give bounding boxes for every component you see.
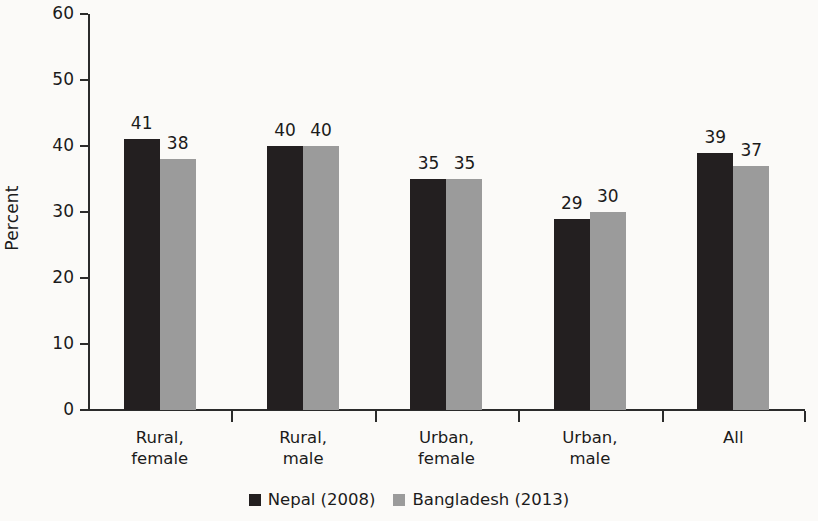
- bar-group: 4040: [231, 14, 374, 410]
- y-axis-tick-label: 0: [0, 401, 74, 418]
- bar-value-label: 40: [310, 122, 332, 139]
- bar: [160, 159, 196, 410]
- bar-value-label: 37: [740, 142, 762, 159]
- y-axis-tick-mark: [80, 343, 88, 345]
- x-axis-tick-mark: [518, 411, 520, 422]
- category-label-line: All: [662, 427, 805, 448]
- legend-label: Nepal (2008): [268, 492, 376, 509]
- bar-value-label: 29: [561, 195, 583, 212]
- y-axis-tick-label: 20: [0, 269, 74, 286]
- y-axis-tick-label: 40: [0, 137, 74, 154]
- x-axis-tick-mark: [662, 411, 664, 422]
- category-label-line: female: [375, 448, 518, 469]
- y-axis-tick-mark: [80, 13, 88, 15]
- bar-group: 4138: [88, 14, 231, 410]
- bar-value-label: 40: [274, 122, 296, 139]
- x-axis-category-label: Rural,female: [88, 427, 231, 469]
- category-label-line: male: [518, 448, 661, 469]
- category-label-line: male: [231, 448, 374, 469]
- y-axis-tick-label-text: 0: [0, 401, 74, 418]
- y-axis-tick-label-text: 40: [0, 137, 74, 154]
- legend-label: Bangladesh (2013): [412, 492, 569, 509]
- category-label-line: female: [88, 448, 231, 469]
- category-label-line: Rural,: [231, 427, 374, 448]
- x-axis-category-label: Urban,female: [375, 427, 518, 469]
- category-label-line: Urban,: [518, 427, 661, 448]
- x-axis-category-label: Rural,male: [231, 427, 374, 469]
- bar-value-label: 41: [131, 115, 153, 132]
- category-label-line: Rural,: [88, 427, 231, 448]
- y-axis-tick-label: 60: [0, 5, 74, 22]
- y-axis-tick-mark: [80, 409, 88, 411]
- legend-item[interactable]: Nepal (2008): [249, 492, 376, 509]
- bar-group: 3937: [662, 14, 805, 410]
- category-label-line: Urban,: [375, 427, 518, 448]
- x-axis-tick-mark: [375, 411, 377, 422]
- bar: [410, 179, 446, 410]
- x-axis-category-label: Urban,male: [518, 427, 661, 469]
- x-axis-category-label: All: [662, 427, 805, 448]
- bar-value-label: 38: [167, 135, 189, 152]
- bar: [267, 146, 303, 410]
- y-axis-tick-label-text: 20: [0, 269, 74, 286]
- y-axis-tick-label-text: 60: [0, 5, 74, 22]
- bar: [446, 179, 482, 410]
- y-axis-tick-mark: [80, 211, 88, 213]
- y-axis-tick-mark: [80, 79, 88, 81]
- x-axis-tick-mark: [231, 411, 233, 422]
- y-axis-tick-label-text: 50: [0, 71, 74, 88]
- bar: [124, 139, 160, 410]
- gray-swatch: [393, 494, 405, 506]
- y-axis-tick-label: 30: [0, 203, 74, 220]
- bar-value-label: 35: [418, 155, 440, 172]
- bar: [697, 153, 733, 410]
- y-axis-tick-mark: [80, 277, 88, 279]
- bar-value-label: 35: [454, 155, 476, 172]
- bar: [733, 166, 769, 410]
- y-axis-tick-label-text: 10: [0, 335, 74, 352]
- bar-value-label: 39: [704, 129, 726, 146]
- bar-group: 2930: [518, 14, 661, 410]
- bar: [554, 219, 590, 410]
- y-axis-tick-label: 10: [0, 335, 74, 352]
- y-axis-tick-label: 50: [0, 71, 74, 88]
- y-axis-tick-mark: [80, 145, 88, 147]
- x-axis-end-tick-mark: [804, 411, 806, 422]
- y-axis-tick-label-text: 30: [0, 203, 74, 220]
- bar-chart: Percent 0102030405060 413840403535293039…: [0, 0, 818, 521]
- legend-item[interactable]: Bangladesh (2013): [393, 492, 569, 509]
- bar: [303, 146, 339, 410]
- bar: [590, 212, 626, 410]
- bar-group: 3535: [375, 14, 518, 410]
- bar-value-label: 30: [597, 188, 619, 205]
- dark-swatch: [249, 494, 261, 506]
- chart-legend: Nepal (2008)Bangladesh (2013): [0, 492, 818, 509]
- plot-area: 41384040353529303937: [88, 14, 805, 410]
